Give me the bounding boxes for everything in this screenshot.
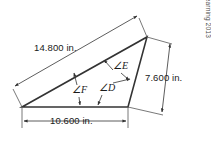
- leader-line-angle-e-2: [121, 73, 129, 80]
- leader-line-angle-d-down: [98, 95, 102, 105]
- copyright-credit: © Cengage Learning 2013: [205, 0, 211, 38]
- angle-label-d: ∠D: [99, 82, 115, 93]
- witness-line-hyp-right: [139, 18, 147, 37]
- leader-line-angle-d-right: [113, 79, 130, 83]
- dimension-label-right-side: 7.600 in.: [145, 72, 182, 83]
- witness-line-right-bottom: [128, 107, 163, 115]
- leader-line-angle-e: [104, 60, 113, 70]
- geometry-figure: 14.800 in. 7.600 in. 10.600 in. ∠E ∠F ∠D…: [0, 0, 211, 143]
- witness-line-hyp-left: [13, 89, 22, 107]
- dimension-label-hypotenuse: 14.800 in.: [34, 42, 77, 53]
- leader-line-angle-f-down: [79, 97, 80, 105]
- dimension-label-base: 10.600 in.: [50, 115, 93, 126]
- angle-label-e: ∠E: [113, 60, 128, 71]
- witness-line-right-top: [147, 37, 172, 44]
- angle-label-f: ∠F: [72, 84, 87, 95]
